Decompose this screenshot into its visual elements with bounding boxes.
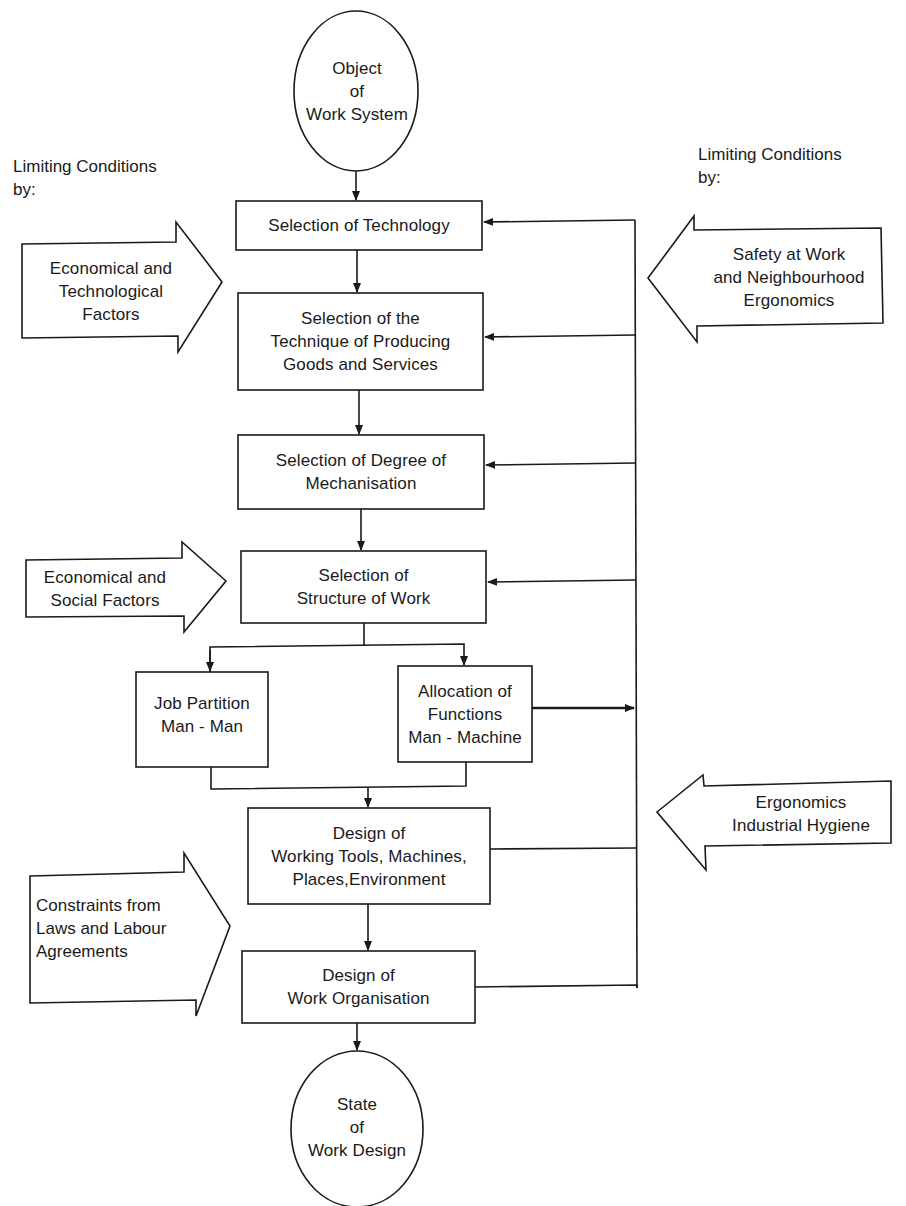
step-selection-of-structure-of-work: Selection of Structure of Work [241, 551, 486, 623]
right-limiting-conditions-heading: Limiting Conditions by: [698, 143, 842, 189]
step-allocation-of-functions: Allocation of Functions Man - Machine [398, 666, 532, 762]
factor-constraints-laws-labour: Constraints from Laws and Labour Agreeme… [36, 894, 166, 963]
step-design-of-work-organisation: Design of Work Organisation [242, 951, 475, 1023]
factor-safety-neighbourhood-ergonomics: Safety at Work and Neighbourhood Ergonom… [696, 230, 882, 324]
factor-economical-technological: Economical and Technological Factors [22, 244, 200, 338]
step-design-of-working-tools: Design of Working Tools, Machines, Place… [248, 808, 490, 904]
step-selection-of-technology: Selection of Technology [236, 201, 482, 250]
left-limiting-conditions-heading: Limiting Conditions by: [13, 155, 157, 201]
step-selection-of-degree-of-mechanisation: Selection of Degree of Mechanisation [238, 435, 484, 509]
step-selection-of-technique: Selection of the Technique of Producing … [238, 293, 483, 390]
end-node-state-of-work-design: State of Work Design [291, 1072, 423, 1182]
work-design-flowchart: Limiting Conditions by: Limiting Conditi… [0, 0, 906, 1206]
factor-economical-social: Economical and Social Factors [26, 560, 184, 617]
factor-ergonomics-industrial-hygiene: Ergonomics Industrial Hygiene [712, 784, 890, 844]
step-job-partition: Job Partition Man - Man [136, 672, 268, 757]
start-node-object-of-work-system: Object of Work System [296, 36, 418, 146]
